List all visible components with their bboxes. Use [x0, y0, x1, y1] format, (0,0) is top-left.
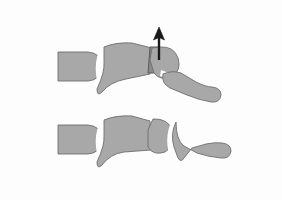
- illustration-figure: Mallet finger: distal interphalangeal jo…: [0, 0, 282, 200]
- canvas-background: [0, 0, 282, 200]
- bone-diagram-canvas: [0, 0, 282, 200]
